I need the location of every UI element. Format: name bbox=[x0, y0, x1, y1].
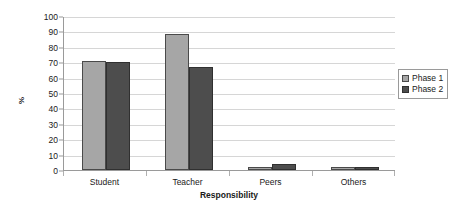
x-axis-title: Responsibility bbox=[63, 190, 395, 200]
x-axis-tick-label: Others bbox=[341, 176, 367, 188]
bar-group bbox=[248, 17, 296, 170]
bar bbox=[355, 167, 379, 170]
y-axis-tick-label: 40 bbox=[49, 105, 58, 114]
y-axis-tick-label: 30 bbox=[49, 121, 58, 130]
chart-legend: Phase 1Phase 2 bbox=[398, 69, 448, 99]
bar-group bbox=[82, 17, 130, 170]
bars-layer bbox=[64, 17, 395, 170]
y-axis-tick-label: 70 bbox=[49, 59, 58, 68]
legend-item: Phase 2 bbox=[402, 84, 443, 95]
y-axis-tick-label: 10 bbox=[49, 151, 58, 160]
bar bbox=[331, 167, 355, 170]
y-axis-tick-label: 90 bbox=[49, 28, 58, 37]
plot-area bbox=[63, 17, 395, 171]
bar bbox=[106, 62, 130, 170]
bar-group bbox=[165, 17, 213, 170]
bar-chart: % 0102030405060708090100 StudentTeacherP… bbox=[0, 0, 475, 211]
legend-swatch-icon bbox=[402, 75, 409, 82]
y-axis-tick-label: 0 bbox=[53, 167, 58, 176]
bar bbox=[272, 164, 296, 170]
bar bbox=[165, 34, 189, 170]
y-axis-tick-label: 100 bbox=[44, 13, 58, 22]
x-axis-tick-label: Student bbox=[90, 176, 119, 188]
y-axis-tick-label: 50 bbox=[49, 90, 58, 99]
legend-label: Phase 1 bbox=[412, 74, 443, 83]
y-axis-tick-label: 20 bbox=[49, 136, 58, 145]
bar bbox=[248, 167, 272, 170]
legend-label: Phase 2 bbox=[412, 85, 443, 94]
y-axis-tick-label: 60 bbox=[49, 74, 58, 83]
x-axis-tick-label: Teacher bbox=[172, 176, 202, 188]
x-axis-tick-labels: StudentTeacherPeersOthers bbox=[63, 176, 395, 190]
legend-item: Phase 1 bbox=[402, 73, 443, 84]
bar-group bbox=[331, 17, 379, 170]
bar bbox=[189, 67, 213, 170]
bar bbox=[82, 61, 106, 170]
x-axis-tick-label: Peers bbox=[259, 176, 281, 188]
y-axis-tick-labels: 0102030405060708090100 bbox=[0, 0, 63, 171]
y-axis-tick-label: 80 bbox=[49, 44, 58, 53]
legend-swatch-icon bbox=[402, 86, 409, 93]
